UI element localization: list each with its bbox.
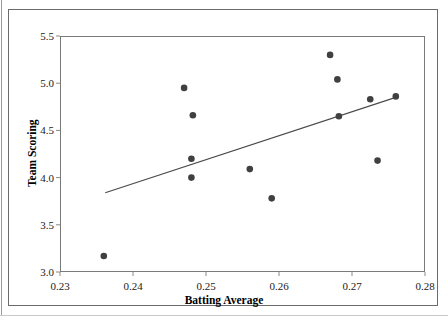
x-axis-tick-label: 0.27 bbox=[342, 280, 361, 292]
page-edge-left-rule bbox=[1, 0, 2, 316]
x-axis-tick-label: 0.26 bbox=[269, 280, 288, 292]
page-edge-bottom-rule bbox=[0, 315, 448, 316]
y-axis-tick-label: 5.0 bbox=[22, 77, 54, 89]
x-axis-title: Batting Average bbox=[0, 294, 448, 306]
x-axis-tick-label: 0.28 bbox=[415, 280, 434, 292]
y-axis-tick-label: 3.0 bbox=[22, 266, 54, 278]
x-axis-tick-label: 0.23 bbox=[50, 280, 69, 292]
y-axis-tick-label: 5.5 bbox=[22, 30, 54, 42]
plot-area bbox=[60, 36, 425, 272]
y-axis-tick-label: 3.5 bbox=[22, 219, 54, 231]
x-axis-tick-label: 0.25 bbox=[196, 280, 215, 292]
x-axis-tick-label: 0.24 bbox=[123, 280, 142, 292]
y-axis-title: Team Scoring bbox=[26, 119, 38, 187]
scatter-plot-figure: 5.55.04.54.03.53.0 0.230.240.250.260.270… bbox=[0, 0, 448, 323]
